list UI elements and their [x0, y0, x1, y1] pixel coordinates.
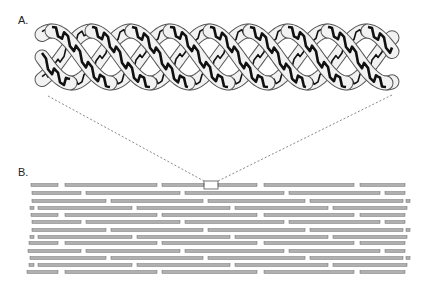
fibril-rod [137, 264, 230, 267]
fibril-rod [406, 257, 410, 260]
fibril-rod [27, 271, 58, 274]
fibril-rod [289, 221, 380, 224]
fibril-rod [86, 250, 180, 253]
fibril-rod [65, 214, 157, 217]
fibril-rod [29, 264, 34, 267]
guide-line-right [218, 95, 392, 181]
fibril-rod [32, 200, 106, 203]
fibril-rod [360, 242, 405, 245]
fibril-rod [162, 214, 257, 217]
fibril-rod [28, 250, 81, 253]
fibril-rod [65, 242, 157, 245]
fibril-rod [310, 257, 403, 260]
fibril-rod [264, 271, 354, 274]
fibril-rod [333, 236, 407, 239]
fibril-rod [406, 200, 410, 203]
triple-helix [42, 27, 392, 87]
fibril-rod [30, 207, 34, 210]
fibril-rod [65, 184, 157, 187]
fibril-rod [137, 207, 230, 210]
fibril-rod [65, 271, 157, 274]
fibril-rod [162, 184, 204, 187]
guide-line-left [48, 96, 204, 181]
fibril-rod [185, 250, 284, 253]
fibril-rod [264, 214, 354, 217]
fibril-rod [333, 207, 407, 210]
figure-canvas [0, 0, 424, 288]
fibril-rod [30, 236, 34, 239]
fibril-rod [86, 192, 180, 195]
fibril-rod [208, 200, 305, 203]
fibril-rod [333, 264, 407, 267]
fibril-array [27, 184, 410, 274]
fibril-rod [111, 229, 203, 232]
fibril-rod [32, 192, 81, 195]
fibril-rod [235, 207, 328, 210]
zoom-box [204, 181, 218, 189]
zoom-guide-lines [48, 95, 392, 181]
fibril-rod [185, 221, 284, 224]
fibril-rod [32, 229, 106, 232]
fibril-rod [38, 207, 132, 210]
fibril-rod [235, 264, 328, 267]
fibril-rod [137, 236, 230, 239]
fibril-rod [30, 257, 106, 260]
fibril-rod [218, 184, 257, 187]
fibril-rod [31, 214, 58, 217]
fibril-rod [31, 184, 58, 187]
fibril-rod [29, 242, 58, 245]
fibril-rod [385, 192, 405, 195]
fibril-rod [86, 221, 180, 224]
fibril-rod [360, 271, 405, 274]
fibril-rod [111, 200, 203, 203]
fibril-rod [360, 214, 405, 217]
fibril-rod [162, 242, 257, 245]
fibril-rod [162, 271, 257, 274]
fibril-rod [264, 184, 354, 187]
fibril-rod [310, 200, 403, 203]
fibril-rod [208, 257, 305, 260]
fibril-rod [360, 184, 405, 187]
fibril-rod [385, 221, 405, 224]
fibril-rod [406, 229, 410, 232]
fibril-rod [385, 250, 405, 253]
fibril-rod [111, 257, 203, 260]
fibril-rod [32, 221, 81, 224]
fibril-rod [208, 229, 305, 232]
fibril-rod [289, 192, 380, 195]
fibril-rod [310, 229, 403, 232]
fibril-rod [264, 242, 354, 245]
fibril-rod [38, 236, 132, 239]
fibril-rod [289, 250, 380, 253]
fibril-rod [185, 192, 284, 195]
fibril-rod [235, 236, 328, 239]
fibril-rod [38, 264, 132, 267]
